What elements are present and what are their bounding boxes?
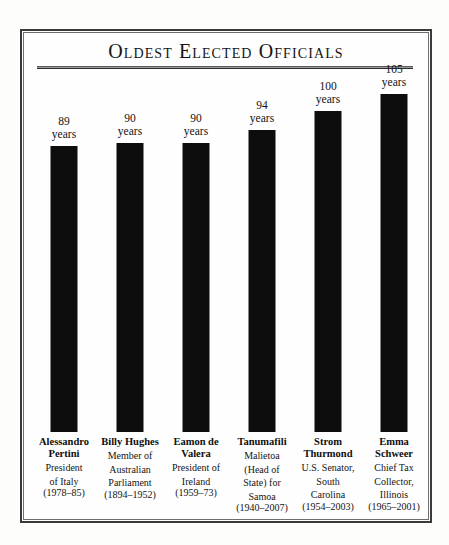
bar	[381, 94, 408, 432]
category-term: (1894–1952)	[95, 489, 165, 501]
category-role: Collector,	[359, 476, 429, 488]
category-role: Australian	[95, 464, 165, 476]
category-name: Pertini	[29, 448, 99, 460]
category-role: State) for	[227, 477, 297, 489]
chart-title: Oldest Elected Officials	[23, 39, 429, 63]
bar-column: 100years	[298, 72, 358, 432]
chart-page: Oldest Elected Officials 89years90years9…	[0, 0, 449, 545]
category-label: StromThurmondU.S. Senator,SouthCarolina(…	[293, 436, 363, 512]
category-term: (1959–73)	[161, 487, 231, 499]
bar-value-unit: years	[166, 125, 226, 138]
bar	[51, 146, 78, 432]
bar-column: 105years	[364, 72, 424, 432]
category-role: Chief Tax	[359, 462, 429, 474]
bar	[249, 130, 276, 432]
bar-value-label: 89years	[34, 115, 94, 141]
bar-value-number: 90	[166, 112, 226, 125]
category-term: (1954–2003)	[293, 501, 363, 513]
bar-value-unit: years	[34, 128, 94, 141]
bar-value-unit: years	[232, 112, 292, 125]
category-role: Illinois	[359, 489, 429, 501]
bar-value-label: 90years	[166, 112, 226, 138]
category-name: Thurmond	[293, 448, 363, 460]
category-label: EmmaSchweerChief TaxCollector,Illinois(1…	[359, 436, 429, 512]
category-name: Tanumafili	[227, 436, 297, 448]
category-role: President of	[161, 462, 231, 474]
bar-value-number: 100	[298, 80, 358, 93]
category-name: Eamon de	[161, 436, 231, 448]
category-label: AlessandroPertiniPresidentof Italy(1978–…	[29, 436, 99, 499]
category-term: (1940–2007)	[227, 502, 297, 514]
bar-value-label: 94years	[232, 99, 292, 125]
bar-column: 89years	[34, 72, 94, 432]
category-name: Schweer	[359, 448, 429, 460]
bar-column: 90years	[100, 72, 160, 432]
category-label: Eamon deValeraPresident ofIreland(1959–7…	[161, 436, 231, 499]
category-role: Parliament	[95, 477, 165, 489]
category-term: (1978–85)	[29, 487, 99, 499]
category-label: TanumafiliMalietoa(Head ofState) forSamo…	[227, 436, 297, 514]
chart-category-labels: AlessandroPertiniPresidentof Italy(1978–…	[23, 436, 429, 514]
category-role: U.S. Senator,	[293, 462, 363, 474]
bar-value-label: 90years	[100, 112, 160, 138]
category-name: Valera	[161, 448, 231, 460]
bar-value-label: 100years	[298, 80, 358, 106]
category-role: Malietoa	[227, 450, 297, 462]
category-role: Member of	[95, 450, 165, 462]
bar-value-number: 94	[232, 99, 292, 112]
chart-plot-area: 89years90years90years94years100years105y…	[23, 72, 429, 432]
bar-column: 90years	[166, 72, 226, 432]
category-name: Billy Hughes	[95, 436, 165, 448]
bar-value-number: 105	[364, 63, 424, 76]
bar	[117, 143, 144, 432]
bar	[315, 111, 342, 432]
category-role: of Italy	[29, 476, 99, 488]
category-label: Billy HughesMember ofAustralianParliamen…	[95, 436, 165, 500]
bar-value-unit: years	[298, 93, 358, 106]
category-role: Carolina	[293, 489, 363, 501]
bar-column: 94years	[232, 72, 292, 432]
bar	[183, 143, 210, 432]
category-role: Ireland	[161, 476, 231, 488]
category-role: (Head of	[227, 464, 297, 476]
category-role: South	[293, 476, 363, 488]
bar-value-number: 89	[34, 115, 94, 128]
bar-value-number: 90	[100, 112, 160, 125]
category-role: President	[29, 462, 99, 474]
category-role: Samoa	[227, 491, 297, 503]
title-divider-rule	[37, 66, 413, 69]
category-name: Strom	[293, 436, 363, 448]
bar-value-label: 105years	[364, 63, 424, 89]
category-term: (1965–2001)	[359, 501, 429, 513]
bar-value-unit: years	[364, 76, 424, 89]
category-name: Emma	[359, 436, 429, 448]
category-name: Alessandro	[29, 436, 99, 448]
bar-value-unit: years	[100, 125, 160, 138]
